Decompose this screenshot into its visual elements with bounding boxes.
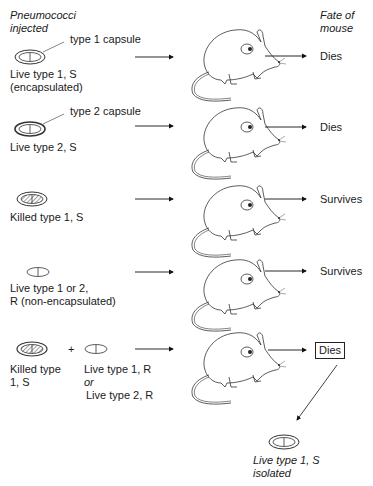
label-row5-a-line1: Killed type xyxy=(10,363,61,376)
callout-type2-capsule: type 2 capsule xyxy=(70,105,141,118)
result-line1: Live type 1, S xyxy=(253,454,320,467)
label-row1: Live type 1, S (encapsulated) xyxy=(10,68,83,94)
result-isolated-label: Live type 1, S isolated xyxy=(253,454,320,480)
fate-row1: Dies xyxy=(320,50,342,63)
label-row5-b-line1: Live type 1, R xyxy=(84,363,153,376)
mouse-row4 xyxy=(192,260,286,331)
label-row5-a-line2: 1, S xyxy=(10,376,61,389)
mouse-row1 xyxy=(192,30,286,101)
bacterium-live-type2-s xyxy=(15,114,64,136)
fate-row4: Survives xyxy=(320,265,362,278)
mouse-row3 xyxy=(192,186,286,257)
label-row3: Killed type 1, S xyxy=(10,211,83,224)
fate-row2: Dies xyxy=(320,121,342,134)
bacterium-live-r-mix xyxy=(85,345,107,354)
label-row1-line2: (encapsulated) xyxy=(10,81,83,94)
label-row4: Live type 1 or 2, R (non-encapsulated) xyxy=(10,282,116,308)
bacterium-live-type1-s xyxy=(15,42,64,64)
label-row4-line2: R (non-encapsulated) xyxy=(10,295,116,308)
arrow-to-isolate xyxy=(297,365,337,420)
label-row5-b-or: or xyxy=(84,376,153,389)
label-row4-line1: Live type 1 or 2, xyxy=(10,282,116,295)
label-row2: Live type 2, S xyxy=(10,141,77,154)
result-line2: isolated xyxy=(253,467,320,480)
fate-row3: Survives xyxy=(320,193,362,206)
bacterium-isolated-type1-s xyxy=(269,435,299,449)
plus-sign: + xyxy=(68,343,74,356)
callout-type1-capsule: type 1 capsule xyxy=(70,33,141,46)
mouse-row5 xyxy=(192,333,286,404)
bacterium-non-encapsulated xyxy=(27,268,49,277)
label-row5-b-line2: Live type 2, R xyxy=(84,389,153,402)
bacterium-killed-type1-s xyxy=(17,192,47,206)
mouse-row2 xyxy=(192,108,286,179)
bacterium-killed-type1-s-mix xyxy=(17,342,47,356)
label-row5-b: Live type 1, R or Live type 2, R xyxy=(84,363,153,402)
fate-row5-boxed: Dies xyxy=(315,342,345,359)
label-row5-a: Killed type 1, S xyxy=(10,363,61,389)
label-row1-line1: Live type 1, S xyxy=(10,68,83,81)
